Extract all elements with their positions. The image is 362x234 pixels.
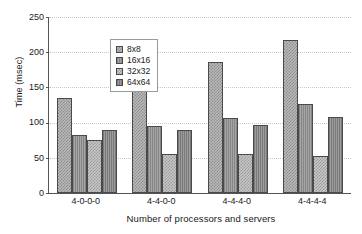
legend-item-64x64: 64x64 <box>116 77 150 87</box>
y-tick-label-50: 50 <box>16 154 44 163</box>
legend-label-32x32: 32x32 <box>127 67 150 76</box>
y-tick-label-100: 100 <box>16 118 44 127</box>
bar-4-4-0-0-8x8 <box>132 76 147 193</box>
bar-4-0-0-0-8x8 <box>57 98 72 193</box>
plot-area: 8x8 16x16 32x32 64x64 <box>48 17 351 194</box>
bar-4-4-4-4-8x8 <box>283 40 298 193</box>
bar-chart-figure: Time (msec) 250 200 150 100 50 0 8x8 <box>0 0 362 234</box>
bar-4-4-0-0-64x64 <box>177 130 192 193</box>
x-axis-title: Number of processors and servers <box>44 213 358 224</box>
legend-label-8x8: 8x8 <box>127 45 141 54</box>
y-tick-label-200: 200 <box>16 48 44 57</box>
y-tick-label-250: 250 <box>16 13 44 22</box>
legend-swatch-32x32 <box>116 68 123 75</box>
legend-label-16x16: 16x16 <box>127 56 150 65</box>
bar-group-4-4-4-4 <box>276 17 352 193</box>
x-axis-tick-labels: 4-0-0-0 4-4-0-0 4-4-4-0 4-4-4-4 <box>48 196 350 206</box>
x-tick-label-1: 4-0-0-0 <box>48 196 124 206</box>
bar-4-0-0-0-16x16 <box>72 135 87 193</box>
x-tick-label-2: 4-4-0-0 <box>124 196 200 206</box>
bar-group-4-4-4-0 <box>200 17 276 193</box>
bar-4-4-4-0-8x8 <box>208 62 223 193</box>
bar-4-4-4-4-32x32 <box>313 156 328 193</box>
bar-4-4-4-4-16x16 <box>298 104 313 193</box>
bar-4-4-0-0-32x32 <box>162 154 177 193</box>
bar-4-4-4-0-64x64 <box>253 125 268 193</box>
bar-4-0-0-0-64x64 <box>102 130 117 193</box>
legend-label-64x64: 64x64 <box>127 78 150 87</box>
y-tick-label-150: 150 <box>16 83 44 92</box>
legend-swatch-64x64 <box>116 79 123 86</box>
bar-4-0-0-0-32x32 <box>87 140 102 194</box>
legend-item-16x16: 16x16 <box>116 55 150 65</box>
bar-4-4-0-0-16x16 <box>147 126 162 193</box>
legend-item-32x32: 32x32 <box>116 66 150 76</box>
bar-4-4-4-0-32x32 <box>238 154 253 193</box>
legend-item-8x8: 8x8 <box>116 44 150 54</box>
legend-swatch-16x16 <box>116 57 123 64</box>
y-tick-mark-0 <box>46 193 50 194</box>
bar-4-4-4-4-64x64 <box>328 117 343 193</box>
x-tick-label-4: 4-4-4-4 <box>275 196 351 206</box>
bar-groups <box>49 17 351 193</box>
y-tick-label-0: 0 <box>16 189 44 198</box>
x-tick-label-3: 4-4-4-0 <box>199 196 275 206</box>
legend-swatch-8x8 <box>116 46 123 53</box>
chart-legend: 8x8 16x16 32x32 64x64 <box>110 39 158 92</box>
bar-4-4-4-0-16x16 <box>223 118 238 193</box>
